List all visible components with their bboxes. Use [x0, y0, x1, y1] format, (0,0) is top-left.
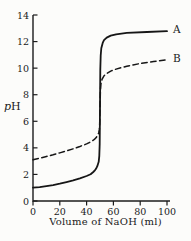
chart-svg: 02468101214020406080100 — [0, 0, 191, 241]
x-tick-label: 100 — [158, 206, 176, 217]
x-tick-label: 20 — [54, 206, 66, 217]
x-tick-label: 60 — [107, 206, 119, 217]
series-b-label: B — [173, 52, 181, 64]
titration-curve-figure: 02468101214020406080100 pH Volume of NaO… — [0, 0, 191, 241]
y-tick-label: 2 — [23, 169, 29, 180]
y-tick-label: 10 — [17, 63, 29, 74]
y-tick-label: 8 — [23, 89, 29, 100]
y-tick-label: 6 — [23, 116, 29, 127]
y-tick-label: 0 — [23, 196, 29, 207]
y-tick-label: 14 — [17, 10, 29, 21]
y-tick-label: 12 — [17, 36, 29, 47]
x-tick-label: 0 — [30, 206, 36, 217]
y-tick-label: 4 — [23, 142, 29, 153]
y-axis-label-p: p — [4, 100, 11, 113]
x-tick-label: 80 — [134, 206, 146, 217]
y-axis-label-h: H — [11, 100, 21, 113]
axes — [33, 15, 170, 201]
y-axis-label: pH — [4, 100, 21, 113]
curve-a — [33, 31, 167, 188]
series-a-label: A — [173, 23, 181, 35]
x-tick-label: 40 — [81, 206, 93, 217]
x-axis-label: Volume of NaOH (ml) — [20, 216, 191, 227]
